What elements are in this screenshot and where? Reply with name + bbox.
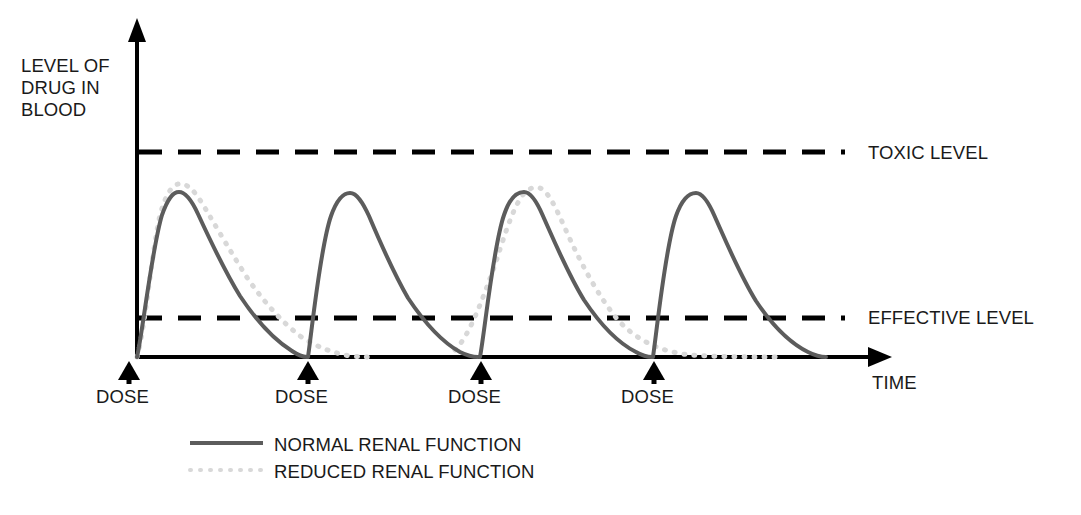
- dose-arrow-1: [297, 361, 319, 384]
- y-axis-label: LEVEL OF DRUG IN BLOOD: [21, 55, 110, 120]
- x-axis-label: TIME: [872, 372, 917, 394]
- reduced-renal-function-curve: [137, 184, 782, 357]
- legend-item-normal-renal-function: NORMAL RENAL FUNCTION: [274, 434, 521, 456]
- dose-arrow-3: [643, 361, 665, 384]
- dose-label-3: DOSE: [621, 386, 674, 408]
- dose-arrow-2: [470, 361, 492, 384]
- toxic-level-label: TOXIC LEVEL: [868, 142, 988, 164]
- pharmacokinetics-chart: [0, 0, 1081, 515]
- dose-arrow-0: [118, 361, 140, 384]
- dose-label-0: DOSE: [96, 386, 149, 408]
- dose-label-1: DOSE: [275, 386, 328, 408]
- y-axis-label-line-0: LEVEL OF DRUG IN BLOOD: [21, 55, 110, 120]
- chart-canvas: LEVEL OF DRUG IN BLOOD TIME TOXIC LEVEL …: [0, 0, 1081, 515]
- legend-item-reduced-renal-function: REDUCED RENAL FUNCTION: [274, 461, 535, 483]
- normal-renal-function-curve: [137, 192, 826, 357]
- dose-label-2: DOSE: [448, 386, 501, 408]
- x-axis: [135, 347, 892, 367]
- effective-level-label: EFFECTIVE LEVEL: [868, 307, 1034, 329]
